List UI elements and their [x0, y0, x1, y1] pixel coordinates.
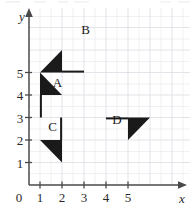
- x-tick-label-5: 5: [125, 190, 132, 205]
- coordinate-grid-figure: 1 2 3 4 5 1 2 3 4 5 0 y x: [0, 0, 194, 213]
- x-tick-label-4: 4: [103, 190, 110, 205]
- x-tick-labels: 1 2 3 4 5: [37, 190, 132, 205]
- y-axis-arrowhead: [25, 8, 33, 17]
- x-axis-label: x: [178, 191, 185, 206]
- x-axis-arrowhead: [178, 181, 187, 189]
- shape-label-A: A: [53, 75, 63, 90]
- y-tick-label-4: 4: [17, 88, 24, 103]
- shape-label-B: B: [81, 22, 90, 37]
- x-tick-label-1: 1: [37, 190, 44, 205]
- y-axis: [25, 8, 33, 185]
- y-tick-label-5: 5: [17, 66, 24, 81]
- y-tick-label-1: 1: [17, 156, 24, 171]
- y-tick-labels: 1 2 3 4 5: [17, 66, 24, 171]
- y-tick-label-3: 3: [17, 111, 24, 126]
- shape-label-D: D: [112, 112, 121, 127]
- x-axis: [29, 181, 187, 189]
- plot-area: 1 2 3 4 5 1 2 3 4 5 0 y x: [0, 0, 194, 213]
- x-tick-label-3: 3: [81, 190, 88, 205]
- grid-lines: [29, 8, 190, 185]
- y-tick-label-2: 2: [17, 133, 24, 148]
- shape-label-C: C: [48, 119, 57, 134]
- origin-label: 0: [16, 190, 23, 205]
- y-axis-label: y: [17, 9, 25, 24]
- x-tick-label-2: 2: [59, 190, 66, 205]
